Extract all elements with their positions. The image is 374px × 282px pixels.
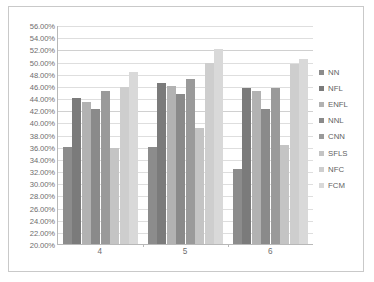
bar-nn-5 (148, 147, 157, 244)
bar-fcm-4 (129, 72, 138, 244)
legend-item-nnl[interactable]: NNL (319, 113, 374, 129)
legend-label: NFL (328, 84, 343, 93)
bar-nfl-5 (157, 83, 166, 244)
y-axis-tick-label: 54.00% (30, 34, 55, 43)
y-axis-tick-label: 30.00% (30, 180, 55, 189)
legend-swatch-icon (319, 167, 324, 172)
chart-screenshot: 56.00%54.00%52.00%50.00%48.00%46.00%44.0… (0, 0, 374, 282)
legend-swatch-icon (319, 86, 324, 91)
bar-enfl-6 (252, 91, 261, 244)
bar-nnl-6 (261, 109, 270, 244)
legend-item-nfc[interactable]: NFC (319, 161, 374, 177)
bars-layer (58, 26, 313, 244)
legend-label: CNN (328, 132, 345, 141)
bar-group (143, 26, 228, 244)
y-axis-tick-label: 56.00% (30, 22, 55, 31)
legend-label: NNL (328, 116, 344, 125)
legend-item-nfl[interactable]: NFL (319, 80, 374, 96)
bar-sfls-5 (195, 128, 204, 244)
bar-nfc-6 (290, 64, 299, 244)
bar-nfl-4 (72, 98, 81, 244)
bar-cnn-4 (101, 91, 110, 244)
plot-area (57, 26, 313, 245)
x-axis-tick-label: 6 (228, 247, 313, 263)
bar-nfl-6 (242, 88, 251, 244)
y-axis-tick-label: 28.00% (30, 192, 55, 201)
y-axis-tick-label: 52.00% (30, 46, 55, 55)
x-axis-tick-label: 5 (142, 247, 227, 263)
legend-swatch-icon (319, 70, 324, 75)
y-axis-tick-label: 20.00% (30, 241, 55, 250)
legend-item-cnn[interactable]: CNN (319, 129, 374, 145)
y-axis-tick-label: 26.00% (30, 204, 55, 213)
y-axis-tick-label: 34.00% (30, 155, 55, 164)
bar-sfls-6 (280, 145, 289, 244)
bar-nfc-4 (120, 87, 129, 244)
y-axis-tick-label: 48.00% (30, 70, 55, 79)
legend-swatch-icon (319, 151, 324, 156)
bar-nn-4 (63, 147, 72, 244)
bar-fcm-5 (214, 49, 223, 244)
y-axis-tick-label: 38.00% (30, 131, 55, 140)
legend-label: ENFL (328, 100, 348, 109)
legend-swatch-icon (319, 102, 324, 107)
y-axis-tick-label: 22.00% (30, 228, 55, 237)
y-axis: 56.00%54.00%52.00%50.00%48.00%46.00%44.0… (17, 26, 57, 245)
chart-legend: NNNFLENFLNNLCNNSFLSNFCFCM (319, 64, 374, 194)
x-axis-tick-label: 4 (57, 247, 142, 263)
bar-group (228, 26, 313, 244)
y-axis-tick-label: 36.00% (30, 143, 55, 152)
bar-nn-6 (233, 169, 242, 244)
legend-label: FCM (328, 181, 345, 190)
legend-label: NFC (328, 165, 344, 174)
y-axis-tick-label: 50.00% (30, 58, 55, 67)
legend-item-fcm[interactable]: FCM (319, 177, 374, 193)
y-axis-tick-label: 46.00% (30, 82, 55, 91)
bar-enfl-5 (167, 86, 176, 244)
y-axis-tick-label: 32.00% (30, 168, 55, 177)
y-axis-tick-label: 44.00% (30, 95, 55, 104)
y-axis-tick-label: 40.00% (30, 119, 55, 128)
y-axis-tick-label: 42.00% (30, 107, 55, 116)
bar-enfl-4 (82, 102, 91, 244)
y-axis-tick-label: 24.00% (30, 216, 55, 225)
bar-sfls-4 (110, 148, 119, 244)
legend-item-enfl[interactable]: ENFL (319, 96, 374, 112)
x-axis: 456 (57, 247, 313, 263)
bar-fcm-6 (299, 59, 308, 244)
legend-swatch-icon (319, 118, 324, 123)
legend-swatch-icon (319, 183, 324, 188)
legend-swatch-icon (319, 134, 324, 139)
legend-label: SFLS (328, 149, 348, 158)
bar-group (58, 26, 143, 244)
bar-cnn-5 (186, 79, 195, 244)
bar-nnl-5 (176, 94, 185, 244)
legend-item-nn[interactable]: NN (319, 64, 374, 80)
legend-label: NN (328, 68, 339, 77)
legend-item-sfls[interactable]: SFLS (319, 145, 374, 161)
bar-cnn-6 (271, 88, 280, 244)
bar-nfc-5 (205, 63, 214, 244)
bar-nnl-4 (91, 109, 100, 244)
chart-frame: 56.00%54.00%52.00%50.00%48.00%46.00%44.0… (8, 6, 364, 272)
